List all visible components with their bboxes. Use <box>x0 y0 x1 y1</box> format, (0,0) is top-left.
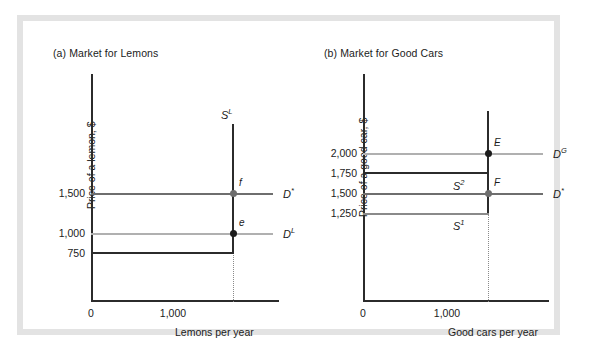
panel-b-ytick-1750: 1,750 <box>309 167 357 179</box>
panel-a-curve-label-dstar: D* <box>283 186 294 200</box>
panel-a-x-axis <box>91 300 279 302</box>
panel-b-ytick-2000: 2,000 <box>309 147 357 159</box>
panel-a-curve-label-sl: SL <box>221 107 233 121</box>
panel-a-x-axis-label: Lemons per year <box>175 326 254 338</box>
panel-b-supply-s2-vertical <box>487 111 489 214</box>
panel-market-for-good-cars: (b) Market for Good Cars Price of a good… <box>301 21 566 329</box>
panel-a-title: (a) Market for Lemons <box>53 47 158 59</box>
figure-frame: (a) Market for Lemons Price of a lemon, … <box>17 15 560 335</box>
panel-b-demand-dg-line <box>363 153 543 155</box>
panel-b-curve-label-dg: DG <box>553 146 567 160</box>
panel-a-ytick-750: 750 <box>37 247 85 259</box>
panel-a-xtick-origin: 0 <box>79 307 103 319</box>
panel-b-dropline-1000 <box>488 213 489 302</box>
panel-b-supply-s1-horizontal <box>363 213 489 215</box>
panel-a-y-axis <box>91 74 93 302</box>
panel-b-demand-dstar-line <box>363 193 543 195</box>
panel-b-curve-label-s2: S2 <box>453 178 465 192</box>
panel-b-curve-label-s1: S1 <box>453 218 465 232</box>
panel-b-x-axis <box>363 300 549 302</box>
panel-a-xtick-1000: 1,000 <box>143 307 203 319</box>
panel-a-point-f-label: f <box>239 177 242 188</box>
panel-b-point-F-label: F <box>494 177 500 188</box>
panel-b-point-E-label: E <box>494 137 501 148</box>
panel-b-supply-s2-horizontal <box>363 172 489 174</box>
panel-b-point-F-marker <box>485 190 492 197</box>
panel-b-xtick-1000: 1,000 <box>417 307 477 319</box>
panel-a-dropline-1000 <box>233 253 234 302</box>
panel-market-for-lemons: (a) Market for Lemons Price of a lemon, … <box>23 21 309 329</box>
panel-a-demand-dstar-line <box>91 193 273 195</box>
panel-a-point-f-marker <box>230 190 237 197</box>
panel-b-plot-area: DG S2 D* S1 E F <box>363 74 549 302</box>
panel-a-point-e-label: e <box>239 217 245 228</box>
panel-a-ytick-1500: 1,500 <box>37 187 85 199</box>
panel-a-curve-label-dstar-text: D <box>283 188 291 200</box>
panel-a-demand-dl-line <box>91 233 273 235</box>
panel-b-xtick-origin: 0 <box>351 307 375 319</box>
panel-a-point-e-marker <box>230 230 237 237</box>
panel-b-x-axis-label: Good cars per year <box>448 326 538 338</box>
panel-a-ytick-1000: 1,000 <box>37 227 85 239</box>
panel-b-y-axis <box>363 74 365 302</box>
panel-b-point-E-marker <box>485 150 492 157</box>
panel-b-ytick-1250: 1,250 <box>309 207 357 219</box>
panel-a-supply-sl-horizontal <box>91 252 234 254</box>
panel-b-title: (b) Market for Good Cars <box>324 47 443 59</box>
panel-a-curve-label-dl: DL <box>283 226 295 240</box>
panel-a-plot-area: D* DL SL f e <box>91 74 279 302</box>
panel-b-curve-label-dstar: D* <box>553 186 564 200</box>
panel-b-curve-label-dstar-text: D <box>553 188 561 200</box>
panel-a-curve-label-dl-text: D <box>283 228 291 240</box>
panel-b-ytick-1500: 1,500 <box>309 187 357 199</box>
panel-b-curve-label-dg-text: D <box>553 148 561 160</box>
